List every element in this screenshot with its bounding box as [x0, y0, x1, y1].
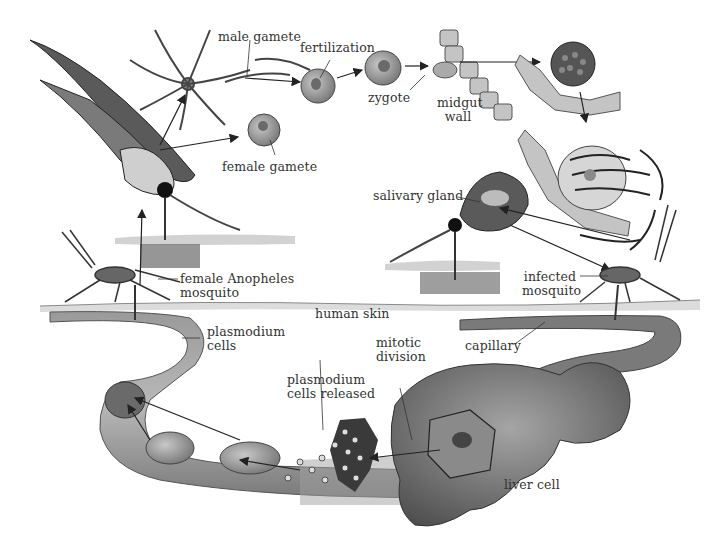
- ruptured-oocyst: [518, 130, 663, 250]
- infected-red-cell: [146, 432, 194, 464]
- label-plasmodium-cells-released: plasmodium cells released: [287, 373, 375, 401]
- label-midgut-wall-line1: midgut: [437, 96, 479, 110]
- label-infected-mosquito-line1: infected: [522, 270, 578, 284]
- tissue-left: [140, 244, 200, 268]
- label-male-gamete: male gamete: [218, 30, 301, 44]
- male-gamete-cluster: [130, 30, 310, 130]
- illustration: [0, 0, 715, 550]
- liver-cell-structure: [391, 363, 630, 526]
- label-fertilization: fertilization: [300, 41, 375, 55]
- skin-patch-right: [385, 260, 500, 271]
- label-female-anopheles-line1: female Anopheles: [180, 272, 294, 286]
- label-plasmodium-cells: plasmodium cells: [207, 325, 285, 353]
- label-capillary: capillary: [465, 339, 521, 353]
- malaria-life-cycle-diagram: male gamete fertilization zygote midgut …: [0, 0, 715, 550]
- label-infected-mosquito: infected mosquito: [522, 270, 578, 298]
- label-plasmodium-released-line2: cells released: [287, 387, 375, 401]
- label-liver-cell: liver cell: [504, 478, 560, 492]
- label-mitotic-division-line2: division: [376, 350, 426, 364]
- label-female-anopheles-line2: mosquito: [180, 286, 294, 300]
- mosquito-feeding-large: [30, 40, 240, 240]
- label-female-anopheles: female Anopheles mosquito: [180, 272, 294, 300]
- label-plasmodium-cells-line1: plasmodium: [207, 325, 285, 339]
- label-plasmodium-cells-line2: cells: [207, 339, 285, 353]
- label-midgut-wall: midgut wall: [437, 96, 479, 124]
- label-mitotic-division-line1: mitotic: [376, 336, 426, 350]
- label-midgut-wall-line2: wall: [437, 110, 479, 124]
- label-infected-mosquito-line2: mosquito: [522, 284, 578, 298]
- tissue-right: [420, 272, 500, 294]
- label-female-gamete: female gamete: [222, 160, 317, 174]
- label-salivary-gland: salivary gland: [373, 189, 463, 203]
- skin-patch-left: [115, 234, 295, 245]
- label-zygote: zygote: [368, 91, 410, 105]
- label-human-skin: human skin: [315, 307, 389, 321]
- oocyst-on-wall: [515, 42, 620, 115]
- label-plasmodium-released-line1: plasmodium: [287, 373, 375, 387]
- red-blood-cell: [220, 442, 280, 474]
- label-mitotic-division: mitotic division: [376, 336, 426, 364]
